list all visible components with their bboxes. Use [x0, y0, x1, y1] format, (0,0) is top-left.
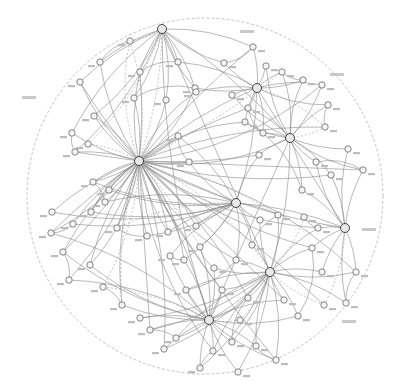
node-label	[283, 218, 290, 220]
diagram-node	[235, 369, 241, 375]
node-label	[97, 193, 104, 195]
hub-node	[232, 199, 241, 208]
hub-node	[205, 316, 214, 325]
diagram-node	[119, 302, 125, 308]
diagram-node	[137, 69, 143, 75]
edge	[69, 280, 209, 320]
diagram-node	[197, 365, 203, 371]
edge	[103, 287, 122, 305]
node-label	[323, 231, 330, 233]
edge	[100, 41, 130, 62]
diagram-node	[353, 269, 359, 275]
diagram-node	[186, 159, 192, 165]
diagram-node	[127, 38, 133, 44]
node-label	[118, 44, 125, 46]
diagram-node	[245, 105, 251, 111]
diagram-node	[106, 187, 112, 193]
diagram-node	[281, 297, 287, 303]
diagram-node	[279, 69, 285, 75]
edge	[331, 175, 345, 228]
diagram-node	[273, 357, 279, 363]
node-label	[166, 139, 173, 141]
node-label	[61, 227, 68, 229]
edge	[139, 161, 331, 179]
diagram-node	[131, 95, 137, 101]
node-label	[128, 321, 135, 323]
diagram-node	[242, 119, 248, 125]
hub-node	[253, 84, 262, 93]
node-label	[253, 111, 260, 113]
diagram-node	[233, 257, 239, 263]
node-label	[327, 275, 334, 277]
diagram-node	[250, 44, 256, 50]
edge	[139, 127, 325, 161]
annotation-label	[342, 320, 356, 323]
diagram-node	[87, 262, 93, 268]
diagram-node	[315, 225, 321, 231]
node-label	[351, 306, 358, 308]
edge	[51, 233, 209, 320]
diagram-node	[102, 199, 108, 205]
diagram-node	[72, 149, 78, 155]
node-label	[227, 293, 234, 295]
diagram-node	[301, 214, 307, 220]
diagram-node	[173, 335, 179, 341]
annotation-label	[330, 73, 344, 76]
edge	[80, 29, 162, 82]
diagram-node	[60, 249, 66, 255]
diagram-node	[48, 230, 54, 236]
node-label	[158, 259, 165, 261]
edge	[345, 228, 356, 272]
diagram-node	[77, 79, 83, 85]
diagram-node	[229, 339, 235, 345]
edge	[342, 149, 348, 228]
node-label	[327, 88, 334, 90]
diagram-node	[345, 146, 351, 152]
diagram-node	[193, 223, 199, 229]
node-label	[321, 165, 328, 167]
diagram-node	[260, 130, 266, 136]
node-label	[40, 215, 47, 217]
edge	[342, 228, 346, 303]
node-label	[229, 66, 236, 68]
node-label	[368, 173, 375, 175]
diagram-node	[163, 97, 169, 103]
edge	[298, 248, 314, 316]
node-label	[289, 303, 296, 305]
node-label	[105, 231, 112, 233]
node-label	[361, 275, 368, 277]
edge	[139, 161, 165, 349]
diagram-node	[114, 225, 120, 231]
annotation-label	[22, 96, 36, 99]
edge	[270, 272, 279, 360]
diagram-node	[70, 221, 76, 227]
hub-node	[341, 224, 350, 233]
node-label	[138, 333, 145, 335]
edge	[139, 161, 248, 298]
node-label	[82, 119, 89, 121]
node-label	[110, 308, 117, 310]
node-label	[253, 301, 260, 303]
diagram-node	[319, 269, 325, 275]
edge	[186, 260, 236, 290]
node-label	[184, 229, 191, 231]
edge	[139, 155, 259, 162]
diagram-node	[165, 229, 171, 235]
edge	[196, 203, 236, 226]
edge	[178, 62, 257, 88]
edge	[290, 105, 328, 138]
diagram-node	[328, 172, 334, 178]
node-label	[184, 95, 191, 97]
node-label	[257, 248, 264, 250]
diagram-node	[253, 343, 259, 349]
edge	[139, 161, 209, 320]
diagram-node	[309, 245, 315, 251]
diagram-node	[256, 152, 262, 158]
edge	[94, 116, 139, 161]
node-label	[91, 290, 98, 292]
edge	[134, 72, 140, 161]
diagram-node	[295, 313, 301, 319]
node-label	[57, 283, 64, 285]
node-label	[333, 108, 340, 110]
diagram-node	[137, 315, 143, 321]
